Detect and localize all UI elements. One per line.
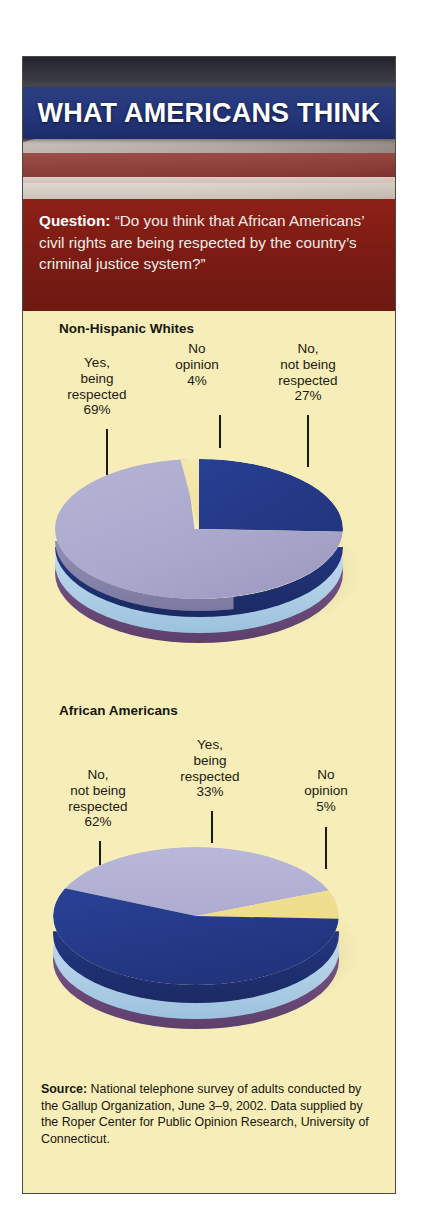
- flag-photo-banner: WHAT AMERICANS THINK: [23, 57, 395, 199]
- flag-stripe-white: [23, 177, 395, 199]
- chart1-pie-top: [55, 459, 343, 599]
- chart2-label-noopinion-l1: No: [281, 767, 371, 783]
- chart1-pie: [55, 441, 343, 641]
- question-block: Question: “Do you think that African Ame…: [23, 199, 395, 311]
- question-text: Question: “Do you think that African Ame…: [39, 210, 379, 275]
- chart1-label-yes-l3: respected: [39, 387, 155, 403]
- chart1-label-noopinion-l2: opinion: [151, 357, 243, 373]
- chart2-label-yes-value: 33%: [151, 784, 269, 800]
- chart2-pie: [53, 831, 339, 1031]
- infographic-card: WHAT AMERICANS THINK Question: “Do you t…: [22, 56, 396, 1194]
- chart1-label-noopinion: No opinion 4%: [151, 341, 243, 388]
- chart1-label-no-l3: respected: [249, 373, 367, 389]
- chart-african-americans: African Americans No, not being respecte…: [23, 681, 395, 1061]
- infographic-page: WHAT AMERICANS THINK Question: “Do you t…: [0, 0, 422, 1229]
- chart2-label-no: No, not being respected 62%: [37, 767, 159, 830]
- chart1-label-no-l2: not being: [249, 357, 367, 373]
- chart2-label-yes-l1: Yes,: [151, 737, 269, 753]
- source-body: National telephone survey of adults cond…: [41, 1082, 369, 1146]
- chart2-title: African Americans: [59, 703, 178, 718]
- chart2-label-yes: Yes, being respected 33%: [151, 737, 269, 800]
- page-title: WHAT AMERICANS THINK: [23, 87, 395, 139]
- chart1-label-no: No, not being respected 27%: [249, 341, 367, 404]
- chart1-label-yes-value: 69%: [39, 402, 155, 418]
- chart1-label-yes: Yes, being respected 69%: [39, 355, 155, 418]
- chart1-title: Non-Hispanic Whites: [59, 321, 194, 336]
- chart1-label-yes-l2: being: [39, 371, 155, 387]
- chart2-label-no-value: 62%: [37, 814, 159, 830]
- chart1-label-no-l1: No,: [249, 341, 367, 357]
- chart2-label-no-l1: No,: [37, 767, 159, 783]
- chart2-pie-top: [53, 847, 339, 985]
- chart2-label-noopinion-value: 5%: [281, 799, 371, 815]
- chart2-label-noopinion-l2: opinion: [281, 783, 371, 799]
- chart2-label-noopinion: No opinion 5%: [281, 767, 371, 814]
- chart1-label-noopinion-value: 4%: [151, 373, 243, 389]
- chart-non-hispanic-whites: Non-Hispanic Whites Yes, being respected…: [23, 311, 395, 681]
- source-label: Source:: [41, 1082, 87, 1096]
- chart1-label-yes-l1: Yes,: [39, 355, 155, 371]
- chart1-label-no-value: 27%: [249, 388, 367, 404]
- chart2-label-no-l2: not being: [37, 783, 159, 799]
- source-block: Source: National telephone survey of adu…: [23, 1065, 395, 1147]
- chart1-label-noopinion-l1: No: [151, 341, 243, 357]
- question-label: Question:: [39, 212, 110, 229]
- chart2-label-no-l3: respected: [37, 799, 159, 815]
- chart2-label-yes-l3: respected: [151, 769, 269, 785]
- chart2-label-yes-l2: being: [151, 753, 269, 769]
- source-text: Source: National telephone survey of adu…: [41, 1081, 377, 1147]
